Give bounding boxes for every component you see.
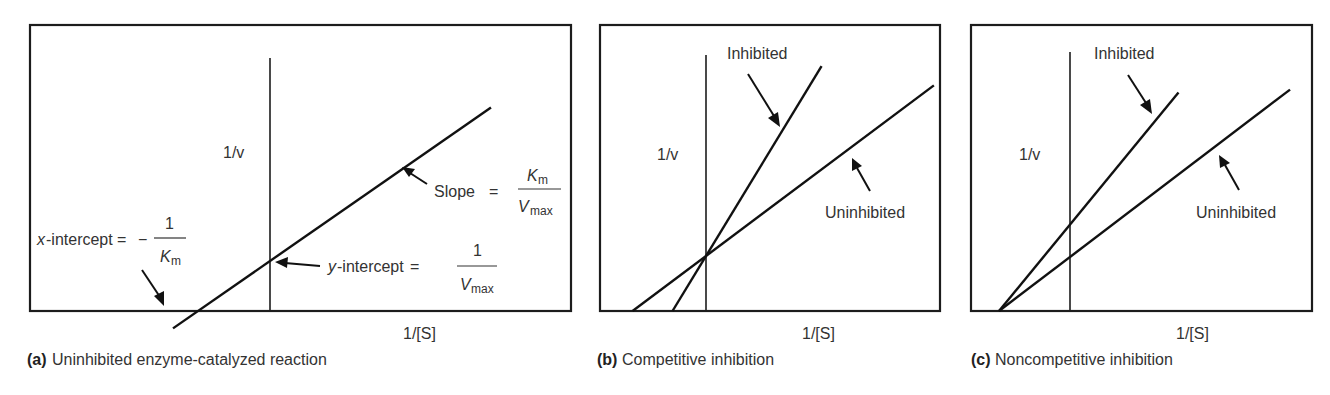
- panel-a-frame: [30, 25, 571, 311]
- panel-a-caption: (a) Uninhibited enzyme-catalyzed reactio…: [27, 351, 327, 368]
- x-intercept-numerator: 1: [165, 215, 174, 232]
- panel-b-x-axis-label: 1/[S]: [802, 325, 835, 342]
- x-intercept-label: -intercept: [46, 231, 113, 248]
- panel-b-uninhibited-label: Uninhibited: [825, 204, 905, 221]
- y-intercept-annotation: y -intercept = 1 V max: [275, 242, 497, 296]
- y-intercept-denominator-subscript: max: [471, 282, 494, 296]
- plot-line-uninhibited: [173, 108, 491, 329]
- panel-c-caption-text: Noncompetitive inhibition: [995, 351, 1173, 368]
- panel-c-caption: (c) Noncompetitive inhibition: [971, 351, 1173, 368]
- y-intercept-var: y: [327, 258, 337, 275]
- panel-a-caption-tag: (a): [27, 351, 47, 368]
- y-intercept-numerator: 1: [473, 242, 482, 259]
- slope-arrow-shaft: [410, 173, 427, 184]
- panel-b-y-axis-label: 1/v: [657, 146, 678, 163]
- figure-lineweaver-burk: 1/v 1/[S] Slope = K m V max x -intercept…: [0, 0, 1330, 395]
- panel-b: 1/v 1/[S] Inhibited Uninhibited (b) Comp…: [597, 25, 940, 368]
- y-intercept-arrow-shaft: [285, 263, 320, 266]
- panel-c-inhibited-label: Inhibited: [1094, 45, 1155, 62]
- panel-a-plot-lines: [173, 108, 491, 329]
- x-intercept-equals: =: [117, 231, 126, 248]
- panel-c-uninhibited-arrow-shaft: [1225, 165, 1239, 190]
- x-intercept-denominator-subscript: m: [171, 254, 181, 268]
- panel-a: 1/v 1/[S] Slope = K m V max x -intercept…: [27, 25, 571, 368]
- panel-b-uninhibited-arrow-shaft: [857, 168, 870, 191]
- y-intercept-equals: =: [410, 258, 419, 275]
- panel-b-caption-tag: (b): [597, 351, 617, 368]
- panel-b-inhibited-arrow-shaft: [748, 74, 774, 116]
- slope-label: Slope: [434, 183, 475, 200]
- panel-c-caption-tag: (c): [971, 351, 991, 368]
- panel-b-frame: [600, 25, 940, 311]
- x-intercept-var: x: [36, 231, 46, 248]
- panel-b-caption-text: Competitive inhibition: [622, 351, 774, 368]
- plot-line-uninhibited: [999, 90, 1290, 311]
- plot-line-uninhibited: [633, 85, 934, 311]
- y-intercept-arrow-icon: [275, 257, 288, 268]
- panel-c-y-axis-label: 1/v: [1019, 146, 1040, 163]
- slope-denominator-subscript: max: [530, 204, 553, 218]
- panel-b-caption: (b) Competitive inhibition: [597, 351, 774, 368]
- panel-c: 1/v 1/[S] Inhibited Uninhibited (c) Nonc…: [971, 25, 1312, 368]
- panel-a-x-axis-label: 1/[S]: [403, 325, 436, 342]
- panel-b-plot-lines: [633, 66, 934, 311]
- plot-line-inhibited: [673, 66, 822, 311]
- panel-b-inhibited-label: Inhibited: [727, 45, 788, 62]
- x-intercept-arrow-shaft: [142, 270, 160, 297]
- slope-numerator-subscript: m: [538, 173, 548, 187]
- x-intercept-annotation: x -intercept = − 1 K m: [36, 215, 186, 306]
- panel-c-plot-lines: [999, 90, 1290, 311]
- panel-c-inhibited-arrow-shaft: [1128, 75, 1146, 103]
- panel-c-uninhibited-label: Uninhibited: [1196, 204, 1276, 221]
- y-intercept-label: -intercept: [337, 258, 404, 275]
- slope-annotation: Slope = K m V max: [402, 167, 561, 218]
- panel-a-caption-text: Uninhibited enzyme-catalyzed reaction: [52, 351, 327, 368]
- x-intercept-arrow-icon: [154, 291, 164, 306]
- panel-a-y-axis-label: 1/v: [223, 144, 244, 161]
- slope-fraction: K m V max: [518, 167, 561, 218]
- panel-c-x-axis-label: 1/[S]: [1176, 325, 1209, 342]
- slope-equals: =: [489, 183, 498, 200]
- plot-line-inhibited: [999, 93, 1178, 311]
- panel-c-frame: [971, 25, 1312, 311]
- x-intercept-minus: −: [138, 231, 147, 248]
- slope-denominator: V: [518, 198, 530, 215]
